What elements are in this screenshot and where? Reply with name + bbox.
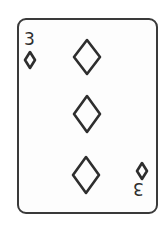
diamond-icon-bottom-right	[137, 163, 147, 179]
pip-diamond-bottom	[73, 157, 99, 193]
pip-diamond-middle	[74, 96, 100, 132]
diamond-icon-top-left	[25, 52, 35, 68]
pip-diamond-top	[74, 40, 100, 74]
